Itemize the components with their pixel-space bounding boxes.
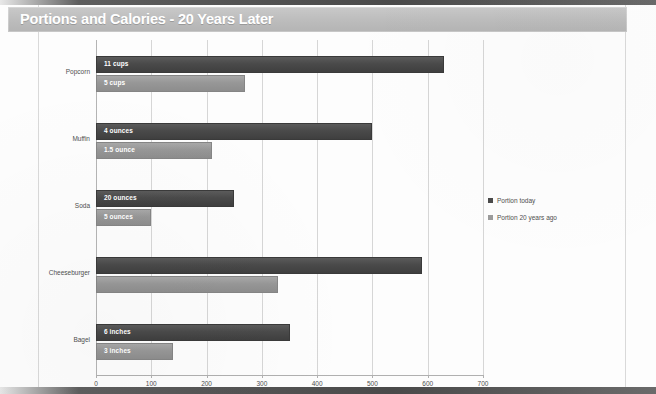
bar-bagel-today: 6 inches [96, 324, 290, 341]
plot-area: Popcorn11 cups5 cupsMuffin4 ounces1.5 ou… [96, 40, 483, 375]
x-tick-label-300: 300 [256, 380, 267, 387]
category-row: Muffin4 ounces1.5 ounce [96, 123, 483, 161]
scan-edge-top [0, 0, 656, 5]
legend-swatch-today [488, 198, 493, 203]
bar-value-label: 5 cups [104, 79, 125, 86]
category-row: Soda20 ounces5 ounces [96, 190, 483, 228]
legend-item: Portion 20 years ago [488, 213, 608, 221]
category-label: Popcorn [66, 68, 90, 75]
bar-muffin-today: 4 ounces [96, 123, 372, 140]
bar-value-label: 11 cups [104, 60, 129, 67]
x-tick-label-200: 200 [201, 380, 212, 387]
x-tick-600 [428, 375, 429, 378]
bar-value-label: 20 ounces [104, 194, 137, 201]
bar-value-label: 4 ounces [104, 127, 133, 134]
category-label: Cheeseburger [49, 269, 90, 276]
bar-bagel-past: 3 inches [96, 343, 173, 360]
x-tick-label-500: 500 [367, 380, 378, 387]
category-label: Bagel [73, 336, 90, 343]
category-label: Muffin [72, 135, 90, 142]
bar-soda-today: 20 ounces [96, 190, 234, 207]
x-tick-300 [262, 375, 263, 378]
x-tick-label-400: 400 [312, 380, 323, 387]
x-tick-label-100: 100 [146, 380, 157, 387]
bar-value-label: 1.5 ounce [104, 146, 135, 153]
bar-popcorn-past: 5 cups [96, 75, 245, 92]
category-row: Bagel6 inches3 inches [96, 324, 483, 362]
x-tick-200 [207, 375, 208, 378]
x-tick-label-0: 0 [94, 380, 98, 387]
bar-cheeseburger-today [96, 257, 422, 274]
x-axis: 0100200300400500600700 [96, 375, 483, 391]
x-tick-100 [151, 375, 152, 378]
legend-item: Portion today [488, 196, 608, 204]
category-row: Popcorn11 cups5 cups [96, 56, 483, 94]
scanned-page: Portions and Calories - 20 Years Later P… [0, 0, 656, 394]
x-tick-0 [96, 375, 97, 378]
chart-legend: Portion todayPortion 20 years ago [488, 196, 608, 230]
x-tick-700 [483, 375, 484, 378]
bar-value-label: 6 inches [104, 328, 131, 335]
bar-value-label: 3 inches [104, 347, 131, 354]
bar-popcorn-today: 11 cups [96, 56, 444, 73]
x-tick-400 [317, 375, 318, 378]
x-tick-500 [372, 375, 373, 378]
x-axis-line [96, 375, 483, 376]
gridline-700 [483, 40, 484, 375]
category-row: Cheeseburger [96, 257, 483, 295]
bar-soda-past: 5 ounces [96, 209, 151, 226]
bar-chart: Popcorn11 cups5 cupsMuffin4 ounces1.5 ou… [0, 34, 656, 386]
legend-label: Portion today [497, 197, 535, 204]
x-tick-label-600: 600 [422, 380, 433, 387]
page-title: Portions and Calories - 20 Years Later [20, 11, 273, 27]
legend-swatch-past [488, 215, 493, 220]
title-banner: Portions and Calories - 20 Years Later [8, 7, 627, 32]
bar-cheeseburger-past [96, 276, 278, 293]
legend-label: Portion 20 years ago [497, 214, 557, 221]
x-tick-label-700: 700 [478, 380, 489, 387]
category-label: Soda [75, 202, 90, 209]
bar-value-label: 5 ounces [104, 213, 133, 220]
bar-muffin-past: 1.5 ounce [96, 142, 212, 159]
